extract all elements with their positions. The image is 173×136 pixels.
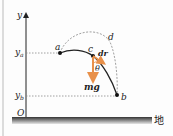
point-a-label: a: [55, 42, 60, 52]
ground-label: 地: [154, 114, 164, 126]
point-b: [115, 93, 119, 97]
physics-diagram: 地 y O ya yb d a c b dr mg θ: [0, 0, 173, 136]
mg-label: mg: [84, 82, 100, 92]
point-b-label: b: [121, 92, 127, 102]
ground-hatch: [12, 117, 152, 124]
y-axis-label: y: [16, 10, 23, 20]
ya-label: ya: [14, 47, 24, 58]
theta-label: θ: [95, 64, 100, 73]
dr-label: dr: [98, 48, 109, 58]
point-d-label: d: [108, 32, 114, 42]
diagram-canvas: 地 y O ya yb d a c b dr mg θ: [0, 0, 173, 136]
origin-label: O: [17, 108, 25, 118]
point-c-label: c: [88, 44, 93, 54]
yb-label: yb: [14, 90, 24, 101]
